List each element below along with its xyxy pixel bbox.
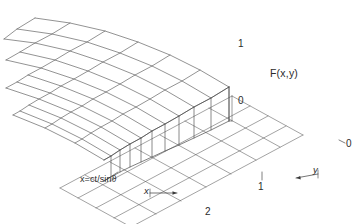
z-axis-tick-zero: 0	[238, 96, 244, 106]
depth-tick-two: 2	[205, 207, 211, 217]
function-label: F(x,y)	[270, 68, 298, 79]
z-axis-tick-one: 1	[238, 39, 244, 49]
axis-arrows	[150, 170, 318, 197]
depth-tick-zero: 0	[346, 139, 352, 149]
depth-tick-one: 1	[258, 182, 264, 192]
cliff-position-label: x=ct/sinϑ	[80, 175, 117, 184]
floor-ticks	[262, 140, 345, 180]
mesh-group	[4, 18, 345, 224]
figure-canvas: 1 0 0 1 2 x y F(x,y) x=ct/sinϑ	[0, 0, 360, 224]
x-axis-label: x	[144, 186, 149, 196]
surface-mesh	[4, 18, 229, 160]
cliff-top-curve	[104, 87, 229, 160]
surface-plot-svg	[0, 0, 360, 224]
cliff-base-curve	[104, 121, 229, 181]
cliff-face	[111, 87, 229, 177]
y-axis-label: y	[313, 165, 318, 175]
floor-grid	[60, 96, 303, 224]
